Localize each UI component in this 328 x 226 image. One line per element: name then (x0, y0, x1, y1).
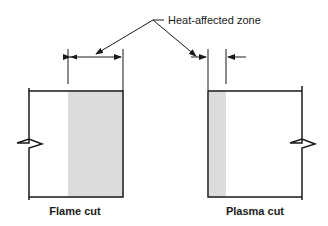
plasma-haz-region (209, 91, 226, 197)
plasma-cut-panel: Plasma cut (191, 49, 315, 217)
flame-cut-caption: Flame cut (49, 205, 101, 217)
callout: Heat-affected zone (96, 14, 261, 56)
callout-arrow-to-flame (96, 20, 153, 54)
flame-cut-panel: Flame cut (17, 49, 123, 217)
heat-affected-zone-diagram: Heat-affected zone Flame cut Plasma cut (0, 0, 328, 226)
callout-label: Heat-affected zone (168, 14, 261, 26)
plasma-cut-caption: Plasma cut (226, 205, 284, 217)
flame-dim-arrow-left (70, 55, 77, 60)
flame-haz-region (68, 91, 123, 197)
